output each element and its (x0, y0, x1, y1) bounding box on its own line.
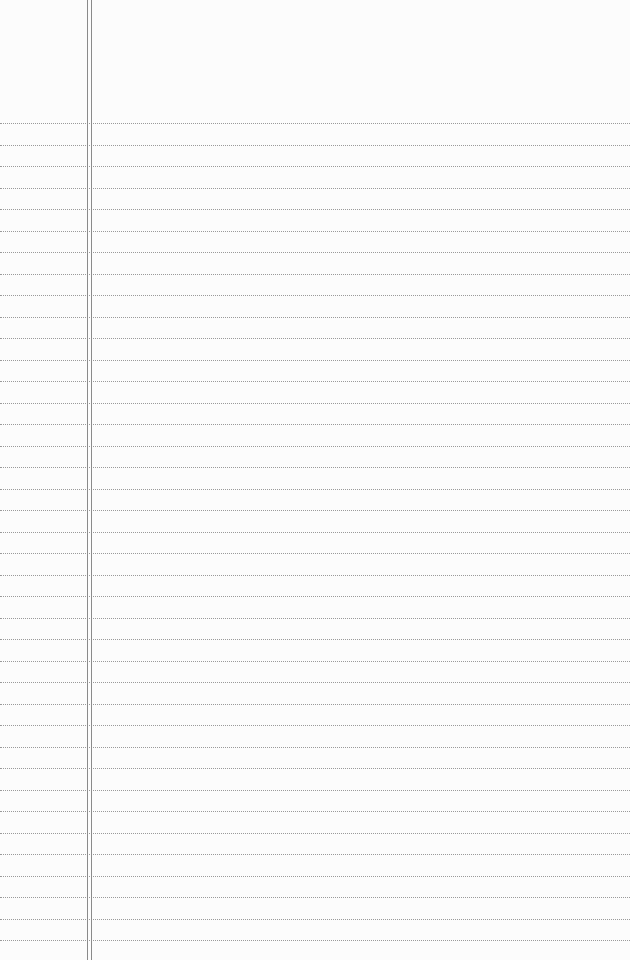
ruled-line (0, 489, 630, 490)
ruled-line (0, 575, 630, 576)
ruled-line (0, 231, 630, 232)
ruled-line (0, 682, 630, 683)
ruled-line (0, 596, 630, 597)
ruled-line (0, 252, 630, 253)
ruled-line (0, 188, 630, 189)
ruled-line (0, 553, 630, 554)
ruled-line (0, 661, 630, 662)
ruled-line (0, 467, 630, 468)
ruled-line (0, 854, 630, 855)
ruled-line (0, 811, 630, 812)
ruled-line (0, 532, 630, 533)
ruled-line (0, 209, 630, 210)
ruled-line (0, 446, 630, 447)
ruled-line (0, 704, 630, 705)
lined-paper (0, 0, 630, 960)
ruled-line (0, 747, 630, 748)
ruled-line (0, 919, 630, 920)
ruled-line (0, 833, 630, 834)
ruled-line (0, 725, 630, 726)
ruled-line (0, 338, 630, 339)
ruled-line (0, 295, 630, 296)
margin-line (87, 0, 88, 960)
ruled-line (0, 274, 630, 275)
ruled-line (0, 790, 630, 791)
ruled-line (0, 123, 630, 124)
margin-line (91, 0, 92, 960)
ruled-line (0, 510, 630, 511)
ruled-line (0, 768, 630, 769)
ruled-line (0, 166, 630, 167)
ruled-line (0, 876, 630, 877)
ruled-line (0, 317, 630, 318)
ruled-line (0, 360, 630, 361)
ruled-line (0, 618, 630, 619)
ruled-line (0, 403, 630, 404)
ruled-line (0, 897, 630, 898)
ruled-line (0, 940, 630, 941)
ruled-line (0, 145, 630, 146)
ruled-line (0, 381, 630, 382)
ruled-line (0, 424, 630, 425)
ruled-line (0, 639, 630, 640)
